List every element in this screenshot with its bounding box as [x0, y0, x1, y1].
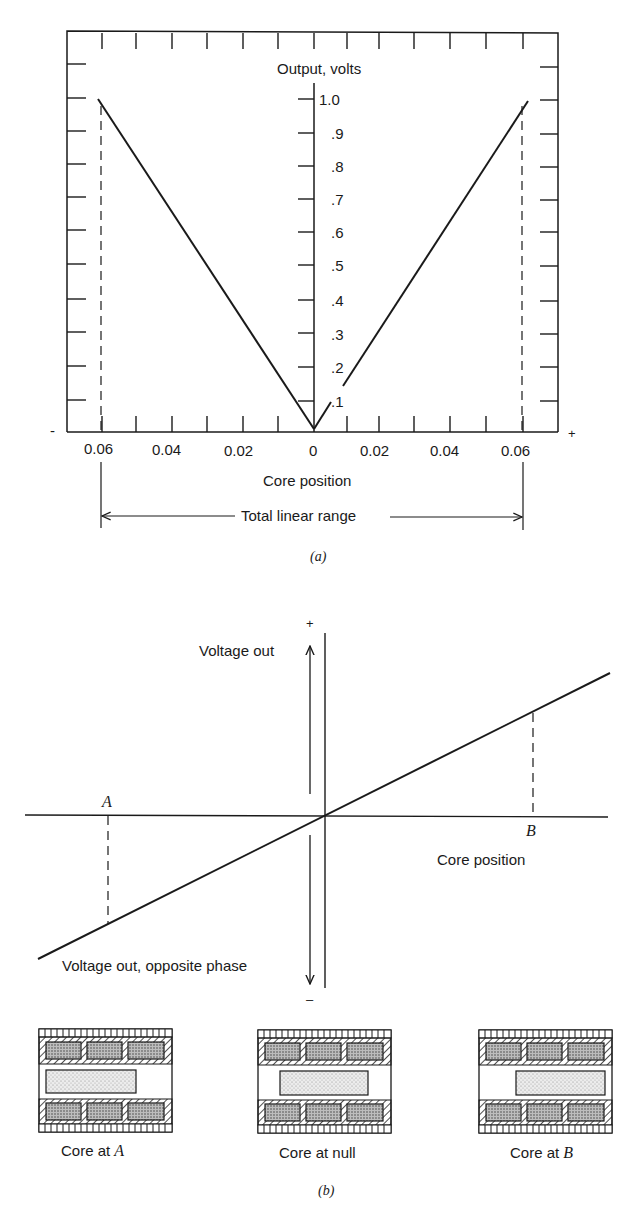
left-ticks — [67, 64, 86, 400]
core-diagram-a — [39, 1029, 172, 1132]
output-curve-right-upper — [343, 101, 528, 386]
x-tick-label: 0.06 — [501, 442, 530, 459]
output-curve-right-lower — [314, 402, 331, 429]
y-tick-label: .9 — [331, 125, 344, 142]
y-tick-label: .8 — [331, 158, 344, 175]
y-tick-label: 1.0 — [319, 91, 340, 108]
caption-b: (b) — [318, 1183, 335, 1199]
y-tick-label: .6 — [331, 224, 344, 241]
horizontal-axis — [25, 815, 608, 817]
core-label-a: Core at A — [61, 1142, 124, 1159]
right-ticks — [540, 67, 558, 401]
voltage-out-label: Voltage out — [199, 642, 275, 659]
y-tick-label: .5 — [331, 257, 344, 274]
minus-sign: – — [306, 992, 314, 1007]
figure-a: Output, volts 1.0 .9 .8 .7 .6 .5 .4 .3 .… — [50, 31, 576, 565]
core-diagram-b — [479, 1030, 612, 1133]
top-ticks — [102, 33, 523, 49]
range-label: Total linear range — [241, 507, 356, 524]
figure-b: + Voltage out Voltage out, opposite phas… — [25, 616, 612, 1199]
core-label-b: Core at B — [510, 1144, 573, 1161]
x-tick-label: 0.04 — [152, 441, 181, 458]
core-label-null: Core at null — [279, 1144, 356, 1161]
output-curve-left — [98, 99, 314, 429]
plus-sign: + — [306, 616, 314, 631]
x-tick-label: 0.02 — [360, 442, 389, 459]
x-tick-label: 0.06 — [84, 440, 113, 457]
plus-sign: + — [568, 426, 576, 441]
x-axis-label: Core position — [263, 472, 351, 489]
minus-sign: - — [50, 422, 55, 439]
core-diagram-null — [258, 1030, 391, 1133]
voltage-out-opposite-label: Voltage out, opposite phase — [62, 957, 247, 974]
y-axis-label: Output, volts — [277, 60, 361, 77]
y-tick-label: .1 — [331, 393, 344, 410]
y-tick-label: .3 — [331, 326, 344, 343]
y-tick-label: .2 — [331, 359, 344, 376]
y-tick-label: .7 — [331, 191, 344, 208]
point-b-label: B — [526, 822, 536, 839]
y-axis-ticks — [298, 99, 314, 401]
bottom-ticks — [102, 416, 523, 432]
caption-a: (a) — [310, 549, 327, 565]
point-a-label: A — [101, 793, 112, 810]
y-tick-label: .4 — [331, 292, 344, 309]
x-tick-label: 0.04 — [430, 442, 459, 459]
figure-canvas: Output, volts 1.0 .9 .8 .7 .6 .5 .4 .3 .… — [0, 0, 643, 1218]
x-axis-label: Core position — [437, 851, 525, 868]
x-tick-label: 0 — [309, 442, 317, 459]
x-tick-label: 0.02 — [224, 442, 253, 459]
